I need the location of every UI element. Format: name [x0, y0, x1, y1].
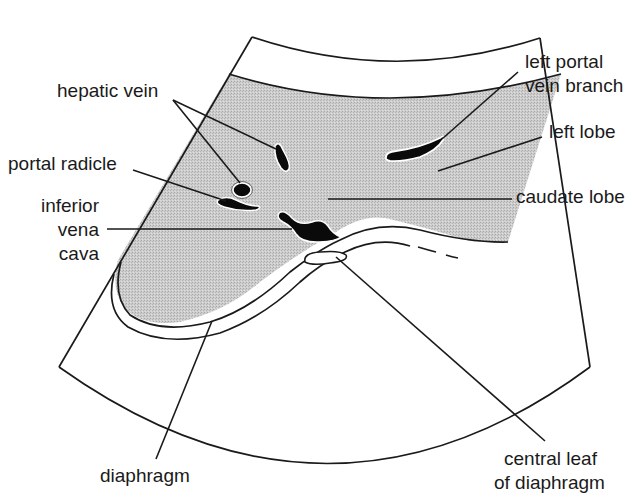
label-left-lobe: left lobe — [549, 121, 616, 142]
label-ivc-line1: inferior — [41, 195, 100, 216]
label-ivc-line3: cava — [59, 243, 100, 264]
leader-diaphragm — [156, 321, 212, 459]
label-left-portal-line2: vein branch — [525, 75, 623, 96]
label-left-portal-line1: left portal — [525, 51, 603, 72]
label-central-leaf-line1: central leaf — [504, 448, 598, 469]
diaphragm-dash-1 — [418, 247, 436, 252]
label-central-leaf-line2: of diaphragm — [494, 472, 605, 493]
central-leaf-shape — [305, 251, 347, 264]
label-diaphragm: diaphragm — [100, 465, 190, 486]
sector-top-arc — [252, 37, 540, 61]
label-hepatic-vein: hepatic vein — [57, 80, 158, 101]
liver-ultrasound-diagram: hepatic vein portal radicle inferior ven… — [0, 0, 644, 499]
diaphragm-dash-2 — [446, 255, 458, 258]
label-ivc-line2: vena — [58, 219, 100, 240]
leader-central-leaf — [336, 257, 545, 441]
hepatic-vein-1 — [233, 183, 251, 197]
label-caudate-lobe: caudate lobe — [516, 186, 625, 207]
label-portal-radicle: portal radicle — [8, 153, 117, 174]
